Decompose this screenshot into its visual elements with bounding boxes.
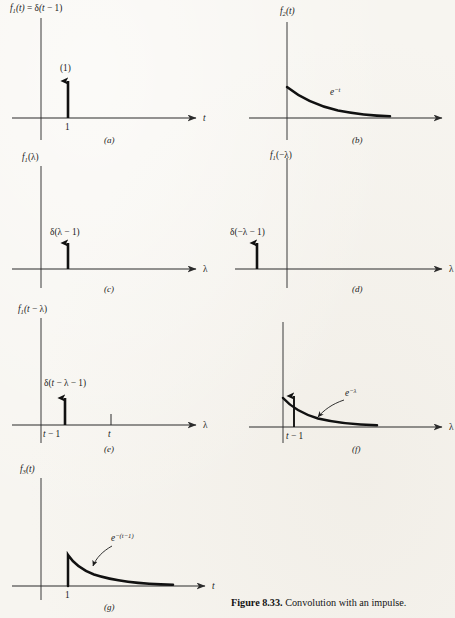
- figure-page: f1(t) = δ(t − 1) (1) 1 t (a) f2(t) e−t (…: [0, 0, 455, 618]
- panel-g-letter: (g): [104, 602, 115, 612]
- figure-caption-text: Convolution with an impulse.: [285, 597, 406, 608]
- panel-g-x-label: t: [212, 581, 215, 591]
- panel-g-y-label: f3(t): [20, 464, 35, 475]
- panel-g: f3(t) e−(t−1) 1 t (g): [12, 464, 215, 612]
- panel-e-tick-label-shifted: t − 1: [43, 429, 60, 439]
- panel-f-letter: (f): [352, 444, 361, 454]
- panel-e-x-label: λ: [203, 420, 208, 430]
- panel-g-tick-label: 1: [65, 590, 70, 600]
- panel-f-x-label: λ: [449, 422, 454, 432]
- panel-c-letter: (c): [104, 284, 114, 294]
- panel-e-impulse-label: δ(t − λ − 1): [44, 378, 86, 389]
- panel-f-curve-label: e−λ: [345, 387, 357, 398]
- panel-f: e−λ t − 1 λ (f): [249, 322, 454, 454]
- panel-e-y-label: f1(t − λ): [18, 304, 47, 315]
- panel-e-letter: (e): [104, 444, 114, 454]
- panel-a: f1(t) = δ(t − 1) (1) 1 t (a): [10, 3, 206, 145]
- panel-d-y-label: f1(−λ): [270, 150, 292, 161]
- figure-caption: Figure 8.33. Convolution with an impulse…: [231, 597, 455, 609]
- panel-c-y-label: f1(λ): [22, 152, 39, 163]
- panel-a-tick-label: 1: [65, 122, 70, 132]
- panel-e: f1(t − λ) δ(t − λ − 1) t − 1 t λ (e): [12, 304, 208, 454]
- panel-e-tick-label-t: t: [108, 429, 111, 439]
- panel-c-x-label: λ: [203, 264, 208, 274]
- panel-g-exponential-curve: [68, 555, 173, 586]
- panel-a-impulse-weight: (1): [60, 63, 71, 74]
- panel-f-exponential-curve: [283, 398, 377, 425]
- panel-a-y-label: f1(t) = δ(t − 1): [10, 3, 62, 14]
- panel-b-curve-label: e−t: [330, 86, 341, 97]
- panel-f-tick-label-shifted: t − 1: [286, 431, 303, 441]
- convolution-figure: f1(t) = δ(t − 1) (1) 1 t (a) f2(t) e−t (…: [0, 0, 455, 618]
- panel-a-letter: (a): [104, 135, 115, 145]
- panel-d: f1(−λ) δ(−λ − 1) λ (d): [230, 150, 454, 294]
- panel-c: f1(λ) δ(λ − 1) λ (c): [12, 152, 208, 294]
- panel-d-x-label: λ: [449, 264, 454, 274]
- panel-d-letter: (d): [352, 284, 363, 294]
- panel-f-leader-line: [318, 400, 344, 417]
- panel-b-letter: (b): [352, 135, 363, 145]
- panel-g-curve-label: e−(t−1): [111, 532, 134, 543]
- panel-g-leader-line: [93, 546, 112, 566]
- panel-b-y-label: f2(t): [280, 6, 295, 17]
- panel-a-x-label: t: [203, 113, 206, 123]
- panel-b: f2(t) e−t (b): [249, 6, 442, 145]
- figure-caption-number: Figure 8.33.: [231, 597, 283, 608]
- panel-d-impulse-label: δ(−λ − 1): [230, 227, 265, 238]
- panel-c-impulse-label: δ(λ − 1): [50, 227, 80, 238]
